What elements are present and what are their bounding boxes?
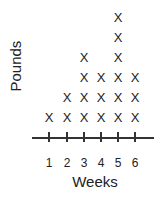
data-mark: X bbox=[78, 71, 90, 84]
data-mark: X bbox=[95, 111, 107, 124]
x-tick bbox=[134, 132, 136, 142]
data-mark: X bbox=[95, 91, 107, 104]
x-tick-label: 1 bbox=[43, 156, 55, 170]
x-tick bbox=[100, 132, 102, 142]
data-mark: X bbox=[78, 51, 90, 64]
data-mark: X bbox=[61, 111, 73, 124]
data-mark: X bbox=[112, 71, 124, 84]
data-mark: X bbox=[112, 51, 124, 64]
data-mark: X bbox=[112, 31, 124, 44]
data-mark: X bbox=[78, 111, 90, 124]
y-axis-label: Pounds bbox=[7, 42, 24, 92]
data-mark: X bbox=[95, 71, 107, 84]
x-tick bbox=[83, 132, 85, 142]
x-tick bbox=[66, 132, 68, 142]
data-mark: X bbox=[61, 91, 73, 104]
x-tick bbox=[117, 132, 119, 142]
data-mark: X bbox=[112, 11, 124, 24]
data-mark: X bbox=[129, 91, 141, 104]
data-mark: X bbox=[129, 111, 141, 124]
x-tick-label: 2 bbox=[61, 156, 73, 170]
x-tick-label: 4 bbox=[95, 156, 107, 170]
x-tick-label: 6 bbox=[129, 156, 141, 170]
data-mark: X bbox=[78, 91, 90, 104]
x-tick-label: 5 bbox=[112, 156, 124, 170]
data-mark: X bbox=[43, 111, 55, 124]
data-mark: X bbox=[112, 91, 124, 104]
x-tick bbox=[48, 132, 50, 142]
data-mark: X bbox=[129, 71, 141, 84]
x-tick-label: 3 bbox=[78, 156, 90, 170]
x-axis-label: Weeks bbox=[50, 173, 140, 190]
data-mark: X bbox=[112, 111, 124, 124]
